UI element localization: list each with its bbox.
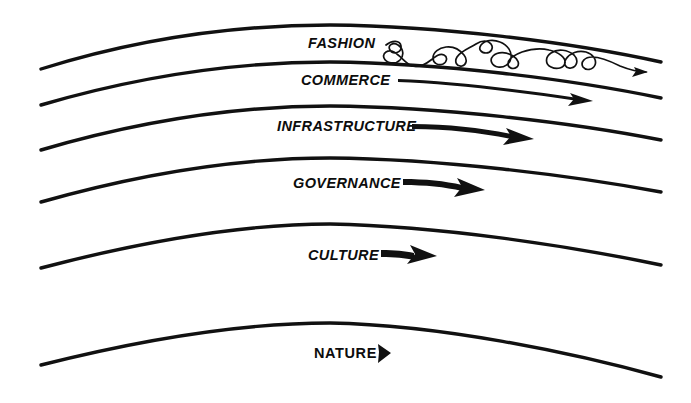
layer-label-culture: CULTURE bbox=[308, 247, 380, 263]
arrow-culture bbox=[381, 245, 437, 264]
layer-label-governance: GOVERNANCE bbox=[293, 175, 402, 191]
pace-layers-diagram: FASHION COMMERCE INFRASTRUCTURE bbox=[0, 0, 691, 403]
arrow-governance bbox=[403, 178, 485, 197]
squiggle-arrowhead bbox=[632, 67, 648, 77]
arrow-fashion bbox=[384, 40, 648, 77]
diagram-canvas: FASHION COMMERCE INFRASTRUCTURE bbox=[0, 0, 691, 403]
infrastructure-arrow-shaft bbox=[412, 124, 512, 139]
layer-label-fashion: FASHION bbox=[308, 35, 375, 51]
layer-governance: GOVERNANCE bbox=[41, 158, 661, 202]
culture-arrow-shaft bbox=[381, 250, 414, 260]
layer-label-nature: NATURE bbox=[314, 345, 377, 361]
layer-label-infrastructure: INFRASTRUCTURE bbox=[277, 118, 417, 134]
arrow-commerce bbox=[398, 79, 593, 106]
layer-label-commerce: COMMERCE bbox=[301, 72, 391, 88]
layer-culture: CULTURE bbox=[41, 224, 661, 268]
layer-fashion: FASHION bbox=[41, 25, 661, 77]
arrow-infrastructure bbox=[412, 124, 534, 145]
layer-nature: NATURE bbox=[41, 323, 661, 377]
governance-arrow-shaft bbox=[403, 179, 462, 191]
layer-infrastructure: INFRASTRUCTURE bbox=[41, 106, 661, 150]
arrow-nature bbox=[378, 344, 391, 363]
commerce-arrow-shaft bbox=[398, 79, 578, 101]
nature-arrowhead bbox=[378, 344, 391, 363]
